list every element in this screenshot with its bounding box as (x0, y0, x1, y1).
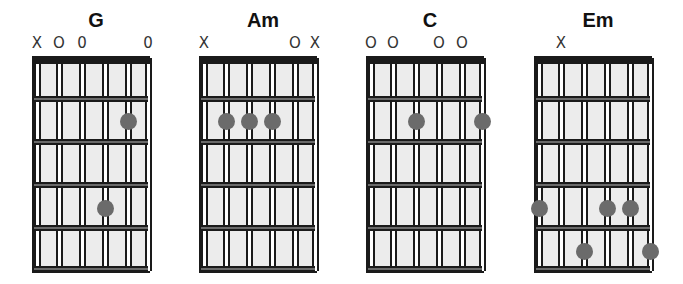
nut (534, 56, 652, 64)
string-marker: O (383, 34, 403, 52)
chord-diagram-c: COOOO (360, 0, 500, 284)
fret-line (368, 266, 482, 272)
fret-line (201, 182, 315, 188)
fretboard (534, 56, 652, 273)
string-marker: O (361, 34, 381, 52)
finger-dot (642, 243, 659, 260)
string-line (368, 58, 375, 271)
fret-line (201, 266, 315, 272)
string-line (436, 58, 443, 271)
string-line (34, 58, 41, 271)
fret-line (34, 182, 148, 188)
nut (366, 56, 484, 64)
string-marker: X (305, 34, 325, 52)
string-line (413, 58, 420, 271)
string-line (223, 58, 230, 271)
string-marker: 0 (138, 34, 158, 52)
finger-dot (97, 200, 114, 217)
string-line (536, 58, 543, 271)
string-line (246, 58, 253, 271)
fret-line (368, 139, 482, 145)
string-marker: O (429, 34, 449, 52)
string-line (558, 58, 565, 271)
string-line (102, 58, 109, 271)
chord-diagram-am: AmXOX (193, 0, 333, 284)
string-line (79, 58, 86, 271)
fret-line (34, 266, 148, 272)
chord-diagram-g: GXO00 (26, 0, 166, 284)
string-line (604, 58, 611, 271)
string-line (269, 58, 276, 271)
string-line (292, 58, 299, 271)
fret-line (34, 225, 148, 231)
fretboard (199, 56, 317, 273)
chord-name: Am (193, 8, 333, 32)
string-line (56, 58, 63, 271)
string-line (459, 58, 466, 271)
fret-line (34, 96, 148, 102)
chord-name: C (360, 8, 500, 32)
finger-dot (599, 200, 616, 217)
string-marker: X (194, 34, 214, 52)
fret-line (536, 182, 650, 188)
finger-dot (264, 113, 281, 130)
nut (199, 56, 317, 64)
string-line (479, 58, 486, 271)
finger-dot (622, 200, 639, 217)
fret-line (201, 225, 315, 231)
fret-line (368, 225, 482, 231)
nut (32, 56, 150, 64)
fret-line (368, 182, 482, 188)
fret-line (201, 96, 315, 102)
string-line (145, 58, 152, 271)
string-line (627, 58, 634, 271)
fret-line (536, 96, 650, 102)
finger-dot (120, 113, 137, 130)
string-line (125, 58, 132, 271)
finger-dot (474, 113, 491, 130)
string-line (390, 58, 397, 271)
string-marker: X (27, 34, 47, 52)
finger-dot (408, 113, 425, 130)
finger-dot (218, 113, 235, 130)
string-line (201, 58, 208, 271)
string-line (581, 58, 588, 271)
fret-line (368, 96, 482, 102)
string-line (312, 58, 319, 271)
fret-line (201, 139, 315, 145)
finger-dot (241, 113, 258, 130)
fretboard (32, 56, 150, 273)
fret-line (536, 266, 650, 272)
string-line (647, 58, 654, 271)
fret-line (536, 139, 650, 145)
string-marker: X (551, 34, 571, 52)
chord-name: Em (528, 8, 668, 32)
string-marker: 0 (72, 34, 92, 52)
fretboard (366, 56, 484, 273)
finger-dot (576, 243, 593, 260)
string-marker: O (49, 34, 69, 52)
finger-dot (531, 200, 548, 217)
string-marker: O (452, 34, 472, 52)
string-marker: O (285, 34, 305, 52)
fret-line (536, 225, 650, 231)
fret-line (34, 139, 148, 145)
chord-diagram-em: EmX (528, 0, 668, 284)
chord-name: G (26, 8, 166, 32)
